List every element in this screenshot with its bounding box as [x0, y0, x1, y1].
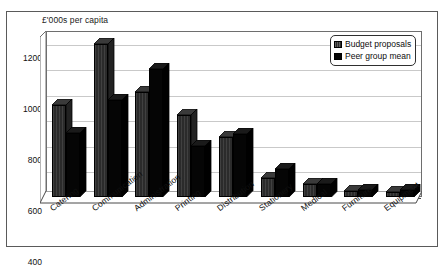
- bar-top-face: [261, 172, 275, 178]
- bar-face: [177, 115, 191, 197]
- legend-item[interactable]: Peer group mean: [334, 50, 411, 62]
- bar[interactable]: [149, 69, 163, 197]
- legend-item[interactable]: Budget proposals: [334, 38, 411, 50]
- bar-top-face: [344, 185, 358, 191]
- bar-group: [261, 31, 289, 197]
- legend-label: Peer group mean: [345, 51, 411, 61]
- bar-top-face: [317, 178, 331, 184]
- bar-top-face: [149, 63, 163, 69]
- bar-side-face: [331, 178, 337, 191]
- bar[interactable]: [94, 44, 108, 197]
- bar-face: [219, 137, 233, 197]
- bar-top-face: [303, 178, 317, 184]
- bar-group: [219, 31, 247, 197]
- bar-top-face: [177, 109, 191, 115]
- bar-top-face: [275, 163, 289, 169]
- x-axis-labels: CateringCommunicationAdministrationPrint…: [40, 205, 422, 275]
- bar-top-face: [219, 131, 233, 137]
- bar[interactable]: [177, 115, 191, 197]
- bar-top-face: [66, 127, 80, 133]
- chart-container: £'000s per capita 020040060080010001200 …: [0, 0, 448, 279]
- bar-group: [52, 31, 80, 197]
- bar-top-face: [386, 186, 400, 192]
- legend-swatch-icon: [334, 53, 342, 60]
- bar-group: [177, 31, 205, 197]
- bar-face: [52, 105, 66, 197]
- bar-top-face: [94, 38, 108, 44]
- chart-legend: Budget proposals Peer group mean: [330, 35, 416, 66]
- bar-side-face: [205, 140, 211, 191]
- bar-top-face: [191, 140, 205, 146]
- bar-face: [149, 69, 163, 197]
- bar-top-face: [108, 94, 122, 100]
- bar[interactable]: [52, 105, 66, 197]
- y-axis-title: £'000s per capita: [42, 15, 108, 25]
- legend-label: Budget proposals: [345, 39, 411, 49]
- bar-side-face: [163, 63, 169, 191]
- legend-swatch-icon: [334, 41, 342, 48]
- bar-top-face: [135, 86, 149, 92]
- bar[interactable]: [219, 137, 233, 197]
- bar-top-face: [233, 128, 247, 134]
- bar-group: [303, 31, 331, 197]
- bar-side-face: [80, 127, 86, 191]
- bar-top-face: [52, 99, 66, 105]
- bar-face: [94, 44, 108, 197]
- bar-group: [94, 31, 122, 197]
